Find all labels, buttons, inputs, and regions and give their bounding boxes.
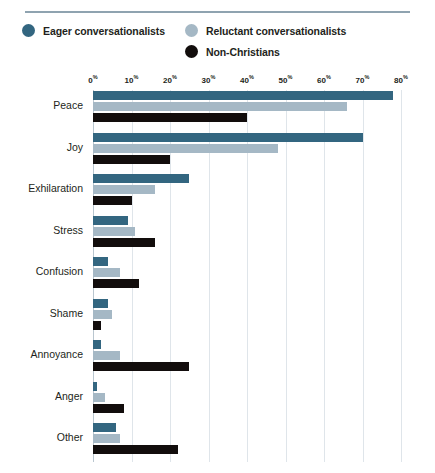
category-label: Anger xyxy=(55,390,83,402)
legend-swatch-icon xyxy=(185,45,198,58)
bar xyxy=(93,174,189,183)
legend-item-label: Non-Christians xyxy=(206,46,280,58)
bar xyxy=(93,310,112,319)
bar xyxy=(93,216,128,225)
x-axis-tick-label: 0% xyxy=(88,74,97,85)
bar xyxy=(93,404,124,413)
bar xyxy=(93,91,393,100)
x-axis-tick-label: 40% xyxy=(240,74,254,85)
category-group: Annoyance xyxy=(93,339,401,381)
top-divider-rule xyxy=(25,11,410,13)
bar xyxy=(93,133,363,142)
bar xyxy=(93,257,108,266)
legend-item-non-christians: Non-Christians xyxy=(185,45,280,58)
legend-item-label: Eager conversationalists xyxy=(43,25,165,37)
legend-swatch-icon xyxy=(185,24,198,37)
bar xyxy=(93,351,120,360)
category-group: Confusion xyxy=(93,256,401,298)
bar xyxy=(93,155,170,164)
bar xyxy=(93,113,247,122)
gridline xyxy=(401,90,402,462)
bar xyxy=(93,102,347,111)
legend-item-eager-conversationalists: Eager conversationalists xyxy=(22,24,165,37)
bar xyxy=(93,299,108,308)
legend-swatch-icon xyxy=(22,24,35,37)
x-axis-tick-label: 30% xyxy=(202,74,216,85)
bar xyxy=(93,279,139,288)
bar xyxy=(93,144,278,153)
bar xyxy=(93,340,101,349)
legend-item-reluctant-conversationalists: Reluctant conversationalists xyxy=(185,24,346,37)
bar xyxy=(93,321,101,330)
chart-legend: Eager conversationalists Reluctant conve… xyxy=(0,24,435,64)
bar xyxy=(93,362,189,371)
legend-item-label: Reluctant conversationalists xyxy=(206,25,346,37)
bar xyxy=(93,196,132,205)
bar xyxy=(93,382,97,391)
category-label: Confusion xyxy=(36,265,83,277)
x-axis-tick-label: 50% xyxy=(279,74,293,85)
category-group: Peace xyxy=(93,90,401,132)
category-group: Exhilaration xyxy=(93,173,401,215)
x-axis-tick-label: 20% xyxy=(163,74,177,85)
category-label: Peace xyxy=(53,99,83,111)
bar xyxy=(93,434,120,443)
x-axis-tick-label: 70% xyxy=(356,74,370,85)
plot-area: PeaceJoyExhilarationStressConfusionShame… xyxy=(93,90,401,462)
category-label: Joy xyxy=(67,141,83,153)
bar xyxy=(93,445,178,454)
bar xyxy=(93,185,155,194)
x-axis-tick-labels: 0%10%20%30%40%50%60%70%80% xyxy=(93,74,401,86)
bar xyxy=(93,393,105,402)
bar xyxy=(93,268,120,277)
category-group: Stress xyxy=(93,215,401,257)
category-label: Stress xyxy=(53,224,83,236)
x-axis-tick-label: 80% xyxy=(394,74,408,85)
category-group: Anger xyxy=(93,381,401,423)
x-axis-tick-label: 10% xyxy=(125,74,139,85)
horizontal-bar-chart: Eager conversationalists Reluctant conve… xyxy=(0,0,435,473)
category-group: Other xyxy=(93,422,401,464)
category-label: Shame xyxy=(50,307,83,319)
x-axis-tick-label: 60% xyxy=(317,74,331,85)
bar xyxy=(93,227,135,236)
category-label: Annoyance xyxy=(30,348,83,360)
category-group: Shame xyxy=(93,298,401,340)
bar xyxy=(93,238,155,247)
bar xyxy=(93,423,116,432)
category-label: Other xyxy=(57,431,83,443)
category-label: Exhilaration xyxy=(28,182,83,194)
category-group: Joy xyxy=(93,132,401,174)
